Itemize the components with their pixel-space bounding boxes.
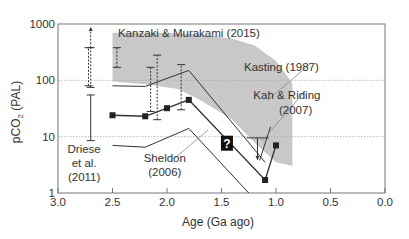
y-tick-label: 100: [36, 74, 55, 86]
data-point-square: [273, 142, 279, 148]
x-tick-label: 2.0: [159, 196, 175, 208]
data-point-square: [142, 113, 148, 119]
y-label-main: pCO: [9, 118, 23, 143]
data-point-square: [164, 105, 170, 111]
annotation-label: Driese: [68, 143, 101, 155]
y-axis-label: pCO2 (PAL): [9, 81, 25, 143]
arrow-down-icon: [255, 156, 259, 160]
arrow-up-icon: [89, 27, 93, 31]
annotation-label: et al.: [72, 157, 97, 169]
question-mark: ?: [223, 137, 230, 151]
svg-text:pCO2 (PAL): pCO2 (PAL): [9, 81, 25, 143]
x-tick-label: 0.0: [377, 196, 393, 208]
pco2-chart: 3.02.52.01.51.00.50.01101001000 Kanzaki …: [0, 0, 409, 239]
x-tick-label: 1.5: [214, 196, 230, 208]
y-tick-label: 1: [49, 187, 55, 199]
annotation-label: Sheldon: [144, 152, 186, 164]
annotation-label: (2006): [148, 166, 181, 178]
annotation-label: Kah & Riding: [253, 89, 320, 101]
data-point-square: [110, 112, 116, 118]
data-point-square: [186, 97, 192, 103]
y-label-unit: (PAL): [9, 81, 23, 114]
annotation-label: Kanzaki & Murakami (2015): [118, 27, 260, 39]
annotation-label: (2011): [68, 171, 101, 183]
x-tick-label: 2.5: [105, 196, 121, 208]
y-tick-label: 1000: [29, 18, 55, 30]
x-tick-label: 0.5: [323, 196, 339, 208]
y-tick-label: 10: [42, 131, 55, 143]
data-point-square: [262, 177, 268, 183]
x-tick-label: 1.0: [268, 196, 284, 208]
annotation-label: Kasting (1987): [244, 61, 319, 73]
annotation-label: (2007): [279, 104, 312, 116]
x-axis-label: Age (Ga ago): [182, 215, 254, 229]
